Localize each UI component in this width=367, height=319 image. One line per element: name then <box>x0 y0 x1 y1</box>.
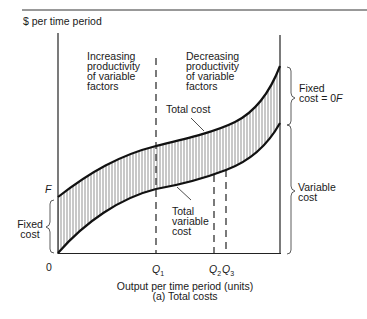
tvc-label-3: cost <box>172 226 191 237</box>
fixed-cost-right-label-2: cost = 0F <box>299 93 343 104</box>
origin-label: 0 <box>46 262 52 273</box>
fixed-cost-brace-right <box>287 67 295 125</box>
fixed-cost-left-label-2: cost <box>14 229 46 240</box>
tvc-pointer <box>177 187 191 200</box>
total-cost-pointer <box>191 118 204 131</box>
variable-cost-brace <box>287 125 295 254</box>
increasing-label-4: factors <box>87 81 119 92</box>
q3-label: Q3 <box>222 264 234 279</box>
fixed-cost-brace-left <box>46 200 54 253</box>
f-tick-label: F <box>45 184 51 195</box>
q2-label: Q2 <box>209 264 221 279</box>
decreasing-label-4: factors <box>186 81 218 92</box>
chart-caption: (a) Total costs <box>90 291 280 302</box>
q1-label: Q1 <box>152 264 164 279</box>
variable-cost-label-2: cost <box>298 192 317 203</box>
total-cost-chart <box>0 0 367 319</box>
y-axis-label: $ per time period <box>23 16 102 27</box>
total-cost-label: Total cost <box>166 104 210 115</box>
